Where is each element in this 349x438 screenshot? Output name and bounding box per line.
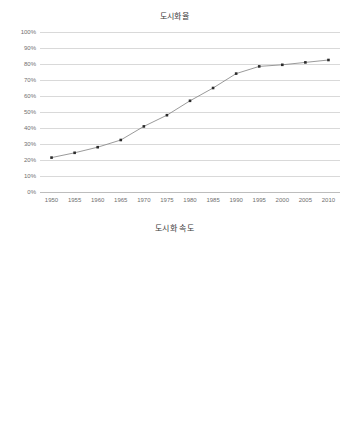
x-axis-tick-label: 1970 [137, 196, 150, 205]
y-axis-tick-label: 60% [24, 93, 36, 99]
x-axis-tick-label: 1990 [229, 196, 242, 205]
x-axis-tick-label: 2010 [322, 196, 335, 205]
data-point-marker [212, 87, 215, 90]
data-point-marker [189, 100, 192, 103]
data-point-marker [281, 64, 284, 67]
x-axis-tick-label: 1965 [114, 196, 127, 205]
x-axis-tick-label: 1980 [183, 196, 196, 205]
data-series [40, 32, 340, 192]
x-axis-tick-label: 1955 [68, 196, 81, 205]
gridline [40, 192, 340, 193]
x-axis-tick-label: 2005 [299, 196, 312, 205]
y-axis-tick-label: 90% [24, 45, 36, 51]
data-point-marker [258, 65, 261, 68]
data-point-marker [327, 59, 330, 62]
y-axis-tick-label: 50% [24, 109, 36, 115]
series-line [52, 60, 329, 158]
data-point-marker [119, 139, 122, 142]
data-point-marker [50, 156, 53, 159]
chart-title-urbanization-rate: 도시화율 [0, 10, 349, 21]
data-point-marker [96, 146, 99, 149]
data-point-marker [304, 61, 307, 64]
x-axis-tick-label: 1985 [206, 196, 219, 205]
y-axis-tick-label: 40% [24, 125, 36, 131]
y-axis-tick-label: 10% [24, 173, 36, 179]
y-axis-tick-label: 100% [21, 29, 36, 35]
x-axis-tick-label: 1960 [91, 196, 104, 205]
x-axis-tick-label: 1975 [160, 196, 173, 205]
data-point-marker [73, 152, 76, 155]
y-axis-tick-label: 70% [24, 77, 36, 83]
chart-urbanization-rate: 도시화율 100%90%80%70%60%50%40%30%20%10%0%19… [0, 0, 349, 218]
data-point-marker [166, 114, 169, 117]
y-axis-tick-label: 0% [27, 189, 36, 195]
data-point-marker [235, 72, 238, 75]
chart-urbanization-speed: 도시화 속도 10.00%9.00%8.00%7.00%6.00%5.00%4.… [0, 218, 349, 438]
x-axis-tick-label: 2000 [276, 196, 289, 205]
chart-title-urbanization-speed: 도시화 속도 [0, 222, 349, 233]
data-point-marker [143, 125, 146, 128]
x-axis-tick-label: 1950 [45, 196, 58, 205]
plot-area-urbanization-rate: 100%90%80%70%60%50%40%30%20%10%0%1950195… [40, 32, 340, 192]
y-axis-tick-label: 80% [24, 61, 36, 67]
x-axis-tick-label: 1995 [253, 196, 266, 205]
y-axis-tick-label: 20% [24, 157, 36, 163]
y-axis-tick-label: 30% [24, 141, 36, 147]
charts-page: 도시화율 100%90%80%70%60%50%40%30%20%10%0%19… [0, 0, 349, 438]
